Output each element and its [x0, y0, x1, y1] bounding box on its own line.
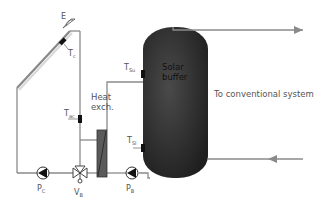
tsl-sensor — [141, 144, 145, 152]
tac-sensor — [78, 115, 82, 123]
tank-label-2: buffer — [162, 72, 188, 82]
solar-system-diagram: E Tc Tac Heat exch. Solar buffer TSu TSl… — [0, 0, 329, 212]
tank-label-1: Solar — [162, 62, 184, 72]
tac-label: Tac — [63, 109, 75, 119]
tsl-label: TSl — [126, 136, 136, 146]
pump-pb — [126, 167, 138, 179]
tc-label: Tc — [67, 49, 76, 59]
tsu-sensor — [141, 70, 145, 78]
hot-outlet-pipe — [173, 27, 303, 30]
tsu-label: TSu — [123, 63, 135, 73]
heat-exchanger-label-1: Heat — [91, 92, 112, 102]
solar-buffer-tank — [143, 27, 208, 178]
outlet-label: To conventional system — [213, 89, 314, 99]
outlet-arrow-icon — [294, 26, 303, 34]
collector-sensor — [59, 37, 67, 45]
valve-actuator-icon — [78, 179, 82, 183]
return-arrow-icon — [268, 155, 277, 163]
heat-exchanger-label-2: exch. — [91, 102, 114, 112]
solar-collector — [17, 19, 75, 90]
pump-to-tank-pipe — [139, 173, 150, 178]
three-way-valve — [73, 166, 87, 183]
pump-pb-label: PB — [126, 184, 135, 194]
collector-loop — [17, 31, 97, 173]
irradiance-label: E — [61, 12, 66, 21]
valve-label: VB — [74, 188, 83, 198]
pump-pc-label: PC — [37, 184, 46, 194]
pump-pc — [37, 167, 49, 179]
